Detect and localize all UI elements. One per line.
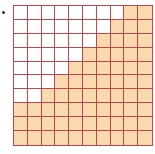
empty-cell [42, 34, 56, 48]
empty-cell [55, 62, 69, 76]
empty-cell [97, 6, 111, 20]
empty-cell [14, 75, 28, 89]
hundred-grid [13, 5, 153, 146]
shaded-cell [111, 34, 125, 48]
shaded-cell [138, 89, 152, 103]
shaded-cell [138, 48, 152, 62]
empty-cell [111, 6, 125, 20]
shaded-cell [28, 131, 42, 145]
shaded-cell [97, 89, 111, 103]
shaded-cell [69, 103, 83, 117]
shaded-cell [124, 62, 138, 76]
shaded-cell [111, 62, 125, 76]
empty-cell [42, 48, 56, 62]
empty-cell [14, 20, 28, 34]
shaded-cell [97, 62, 111, 76]
bullet-marker [2, 11, 5, 14]
empty-cell [83, 6, 97, 20]
shaded-cell [83, 75, 97, 89]
shaded-cell [111, 75, 125, 89]
empty-cell [55, 34, 69, 48]
empty-cell [69, 34, 83, 48]
shaded-cell [42, 89, 56, 103]
shaded-cell [28, 117, 42, 131]
shaded-cell [124, 34, 138, 48]
empty-cell [28, 20, 42, 34]
shaded-cell [124, 6, 138, 20]
empty-cell [69, 6, 83, 20]
shaded-cell [83, 117, 97, 131]
empty-cell [28, 75, 42, 89]
shaded-cell [97, 131, 111, 145]
shaded-cell [138, 62, 152, 76]
shaded-cell [42, 131, 56, 145]
shaded-cell [83, 89, 97, 103]
empty-cell [83, 20, 97, 34]
shaded-cell [83, 48, 97, 62]
empty-cell [69, 48, 83, 62]
shaded-cell [55, 103, 69, 117]
shaded-cell [42, 117, 56, 131]
shaded-cell [138, 117, 152, 131]
shaded-cell [69, 131, 83, 145]
shaded-cell [42, 103, 56, 117]
empty-cell [42, 6, 56, 20]
shaded-cell [83, 131, 97, 145]
shaded-cell [28, 103, 42, 117]
shaded-cell [124, 89, 138, 103]
empty-cell [28, 62, 42, 76]
empty-cell [14, 34, 28, 48]
empty-cell [14, 6, 28, 20]
shaded-cell [138, 34, 152, 48]
empty-cell [69, 20, 83, 34]
shaded-cell [97, 103, 111, 117]
shaded-cell [138, 75, 152, 89]
shaded-cell [97, 48, 111, 62]
empty-cell [55, 20, 69, 34]
shaded-cell [69, 62, 83, 76]
shaded-cell [55, 131, 69, 145]
shaded-cell [124, 75, 138, 89]
empty-cell [97, 20, 111, 34]
empty-cell [83, 34, 97, 48]
empty-cell [28, 34, 42, 48]
empty-cell [55, 6, 69, 20]
empty-cell [42, 62, 56, 76]
shaded-cell [97, 117, 111, 131]
shaded-cell [14, 117, 28, 131]
shaded-cell [111, 103, 125, 117]
shaded-cell [69, 117, 83, 131]
shaded-cell [55, 75, 69, 89]
shaded-cell [69, 75, 83, 89]
empty-cell [42, 75, 56, 89]
shaded-cell [111, 20, 125, 34]
empty-cell [28, 6, 42, 20]
empty-cell [55, 48, 69, 62]
empty-cell [42, 20, 56, 34]
shaded-cell [124, 103, 138, 117]
shaded-cell [111, 48, 125, 62]
empty-cell [14, 48, 28, 62]
shaded-cell [124, 20, 138, 34]
shaded-cell [97, 75, 111, 89]
empty-cell [28, 48, 42, 62]
shaded-cell [14, 131, 28, 145]
shaded-cell [55, 117, 69, 131]
shaded-cell [83, 103, 97, 117]
shaded-cell [124, 131, 138, 145]
shaded-cell [124, 117, 138, 131]
shaded-cell [138, 103, 152, 117]
shaded-cell [111, 131, 125, 145]
shaded-cell [69, 89, 83, 103]
shaded-cell [97, 34, 111, 48]
shaded-cell [83, 62, 97, 76]
shaded-cell [138, 131, 152, 145]
shaded-cell [14, 103, 28, 117]
empty-cell [14, 89, 28, 103]
shaded-cell [138, 20, 152, 34]
empty-cell [28, 89, 42, 103]
shaded-cell [124, 48, 138, 62]
shaded-cell [111, 117, 125, 131]
shaded-cell [55, 89, 69, 103]
shaded-cell [138, 6, 152, 20]
